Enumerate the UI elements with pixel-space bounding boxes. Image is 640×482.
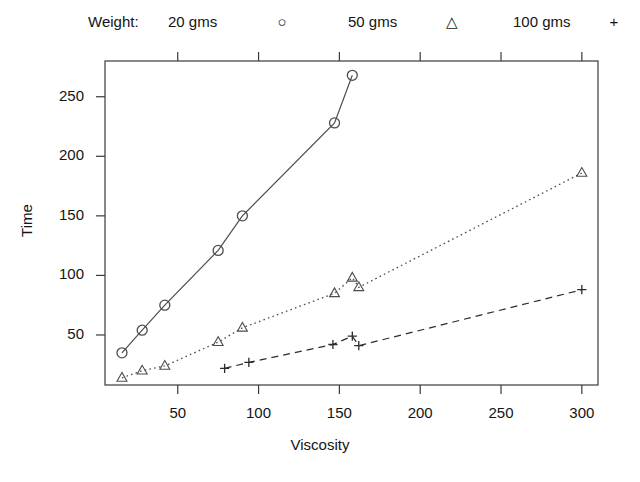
x-tick-label: 200 [400, 404, 440, 421]
data-point-plus [328, 340, 337, 349]
data-point-triangle [213, 337, 223, 346]
data-point-plus [244, 358, 253, 367]
x-tick-label: 250 [481, 404, 521, 421]
series-line-2 [225, 290, 582, 369]
legend-marker-plus-icon: + [604, 13, 624, 30]
data-point-triangle [330, 288, 340, 297]
y-tick-label: 250 [44, 87, 84, 104]
legend: Weight: 20 gms ○ 50 gms △ 100 gms + [0, 0, 640, 44]
legend-marker-circle-icon: ○ [272, 13, 292, 30]
x-tick-label: 50 [158, 404, 198, 421]
y-axis-label: Time [18, 181, 35, 261]
data-point-plus [220, 364, 229, 373]
x-axis-label: Viscosity [0, 436, 640, 453]
figure: Weight: 20 gms ○ 50 gms △ 100 gms + 5010… [0, 0, 640, 482]
data-point-triangle [347, 272, 357, 281]
x-tick-label: 100 [239, 404, 279, 421]
legend-marker-triangle-icon: △ [442, 13, 462, 31]
data-point-triangle [577, 168, 587, 177]
series-line-1 [122, 173, 582, 378]
legend-label-100gms: 100 gms [513, 13, 571, 30]
x-tick-label: 150 [319, 404, 359, 421]
y-tick-label: 50 [44, 325, 84, 342]
legend-label-20gms: 20 gms [168, 13, 217, 30]
data-point-plus [354, 341, 363, 350]
y-tick-label: 150 [44, 206, 84, 223]
data-point-triangle [117, 372, 127, 381]
x-tick-label: 300 [562, 404, 602, 421]
data-point-plus [348, 332, 357, 341]
legend-title: Weight: [88, 13, 139, 30]
data-point-plus [577, 285, 586, 294]
y-tick-label: 100 [44, 265, 84, 282]
legend-label-50gms: 50 gms [348, 13, 397, 30]
y-tick-label: 200 [44, 146, 84, 163]
